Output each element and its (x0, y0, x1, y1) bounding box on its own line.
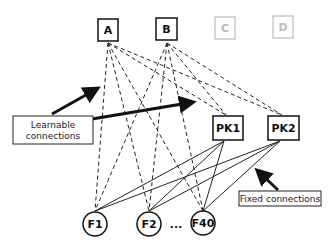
pk-node-1: PK1 (213, 116, 243, 140)
learnable-arrow-2 (92, 103, 188, 119)
diagram-canvas: A B C D PK1 PK2 F1 F2 ... F40 Learnable … (0, 0, 329, 249)
feature-node-f40: F40 (191, 211, 215, 235)
top-node-d: D (273, 16, 293, 38)
top-node-a: A (98, 19, 118, 41)
learnable-edges (95, 43, 282, 211)
feature-node-f2: F2 (137, 212, 161, 236)
top-node-b: B (156, 18, 177, 40)
fixed-arrow (261, 174, 278, 190)
ellipsis: ... (170, 218, 183, 231)
feature-node-f1: F1 (83, 212, 107, 236)
pk-node-2: PK2 (268, 116, 299, 140)
svg-text:PK2: PK2 (271, 122, 295, 135)
svg-text:F2: F2 (141, 218, 156, 231)
svg-text:PK1: PK1 (216, 122, 240, 135)
svg-text:Learnable: Learnable (31, 120, 76, 130)
svg-text:D: D (278, 21, 287, 34)
learnable-connections-callout: Learnable connections (13, 116, 93, 144)
svg-text:Fixed connections: Fixed connections (240, 194, 321, 204)
fixed-connections-callout: Fixed connections (239, 191, 321, 206)
learnable-arrow-1 (52, 91, 93, 114)
top-node-c: C (215, 17, 235, 39)
svg-text:F1: F1 (87, 218, 102, 231)
svg-text:F40: F40 (192, 217, 215, 230)
svg-text:connections: connections (26, 131, 81, 141)
svg-text:C: C (221, 22, 229, 35)
svg-text:A: A (104, 24, 113, 37)
svg-text:B: B (162, 23, 170, 36)
